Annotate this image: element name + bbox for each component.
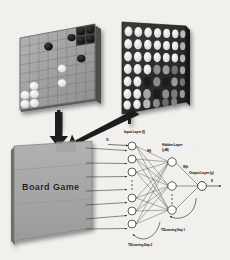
td-step-2-label: TDLearning Step 2 bbox=[128, 244, 152, 247]
weight-input-hidden-label: Wij bbox=[147, 150, 151, 153]
feature-map-panel[interactable] bbox=[122, 22, 190, 124]
board-game-plane[interactable] bbox=[11, 140, 92, 245]
neural-network[interactable] bbox=[108, 142, 221, 239]
hidden-layer-sublabel: (j,dB) bbox=[162, 149, 169, 152]
hidden-layer-ellipsis bbox=[171, 194, 172, 203]
td-step-1-label: TDLearning Step 1 bbox=[161, 229, 185, 232]
input-signal-label: Xi bbox=[106, 139, 109, 142]
input-layer-label: Input Layer (I) bbox=[124, 131, 145, 135]
hidden-layer-nodes[interactable] bbox=[168, 158, 176, 214]
edges-hidden-output bbox=[175, 162, 198, 210]
output-signal-label: E bbox=[211, 180, 213, 183]
edges-input-hidden bbox=[136, 146, 169, 224]
board-game-label: Board Game bbox=[22, 182, 80, 192]
output-layer-node[interactable] bbox=[198, 182, 207, 191]
weight-hidden-output-label: Wjk bbox=[183, 166, 188, 169]
diagram-svg bbox=[0, 0, 230, 260]
output-layer-label: Output Layer (y) bbox=[189, 172, 214, 176]
td-step-2-arc bbox=[133, 222, 160, 239]
input-layer-ellipsis bbox=[131, 180, 132, 189]
figure-canvas: Board Game Xi Input Layer (I) Wij Hidden… bbox=[0, 0, 230, 260]
input-signal-arrow bbox=[108, 145, 128, 146]
